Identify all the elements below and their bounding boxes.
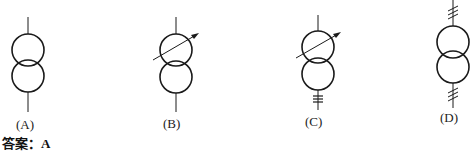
- option-b-symbol: [153, 17, 199, 112]
- option-d-primary-winding: [437, 26, 469, 58]
- option-d-symbol: [437, 0, 469, 108]
- option-a-symbol: [12, 17, 44, 112]
- option-d-label: (D): [440, 110, 458, 126]
- answer-line: 答案：A: [2, 133, 50, 152]
- answer-prefix: 答案：: [2, 136, 41, 151]
- option-c-label: (C): [305, 114, 322, 130]
- option-a-label: (A): [16, 117, 34, 133]
- option-a-primary-winding: [12, 34, 44, 66]
- option-b-arrowhead-icon: [191, 33, 199, 39]
- option-d-top-phase-slashes-icon: [448, 6, 458, 19]
- answer-value: A: [41, 136, 50, 151]
- option-d-secondary-winding: [437, 51, 469, 83]
- option-b-label: (B): [163, 116, 180, 132]
- option-d-bottom-phase-slashes-icon: [448, 88, 458, 101]
- option-c-arrowhead-icon: [333, 32, 341, 38]
- option-a-secondary-winding: [12, 60, 44, 92]
- option-c-symbol: [296, 15, 341, 110]
- transformer-diagram: [0, 0, 474, 152]
